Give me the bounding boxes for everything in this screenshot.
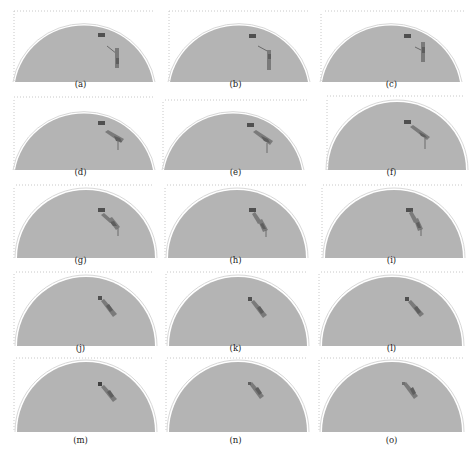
simulation-frame: [157, 2, 314, 82]
panel-label: (n): [157, 435, 314, 445]
panel-n: (n): [157, 356, 314, 446]
moving-object: [267, 50, 271, 70]
panel-label: (g): [2, 255, 159, 265]
panel-f: (f): [313, 90, 470, 180]
panel-label: (e): [157, 167, 314, 177]
panel-label: (a): [2, 79, 159, 89]
target-marker: [404, 120, 411, 124]
target-marker: [248, 382, 251, 385]
panel-l: (l): [313, 266, 470, 356]
panel-h: (h): [157, 178, 314, 268]
target-marker: [98, 121, 105, 125]
target-marker: [248, 297, 252, 301]
target-marker: [98, 208, 105, 212]
panel-label: (f): [313, 167, 470, 177]
panel-label: (d): [2, 167, 159, 177]
panel-o: (o): [313, 356, 470, 446]
target-marker: [402, 382, 405, 385]
panel-g: (g): [2, 178, 159, 268]
target-marker: [98, 382, 102, 386]
panel-label: (i): [313, 255, 470, 265]
panel-j: (j): [2, 266, 159, 356]
panel-label: (h): [157, 255, 314, 265]
panel-label: (b): [157, 79, 314, 89]
simulation-frame: [313, 356, 470, 436]
simulation-frame: [2, 356, 159, 436]
simulation-frame: [313, 266, 470, 346]
target-marker: [404, 34, 411, 38]
panel-a: (a): [2, 2, 159, 92]
target-marker: [249, 208, 256, 212]
panel-e: (e): [157, 90, 314, 180]
target-marker: [98, 33, 105, 37]
simulation-frame: [313, 90, 470, 170]
panel-label: (c): [313, 79, 470, 89]
target-marker: [98, 296, 102, 300]
panel-i: (i): [313, 178, 470, 268]
panel-label: (k): [157, 343, 314, 353]
panel-b: (b): [157, 2, 314, 92]
target-marker: [405, 297, 409, 301]
panel-c: (c): [313, 2, 470, 92]
panel-label: (o): [313, 435, 470, 445]
simulation-frame: [157, 266, 314, 346]
simulation-frame: [313, 178, 470, 258]
simulation-frame: [313, 2, 470, 82]
simulation-frame: [157, 356, 314, 436]
panel-label: (m): [2, 435, 159, 445]
panel-label: (j): [2, 343, 159, 353]
simulation-frame: [2, 266, 159, 346]
panel-d: (d): [2, 90, 159, 180]
simulation-frame: [157, 90, 314, 170]
panel-k: (k): [157, 266, 314, 356]
simulation-frame: [2, 90, 159, 170]
simulation-frame: [2, 2, 159, 82]
simulation-frame: [2, 178, 159, 258]
figure-grid: (a) (b) (c): [0, 0, 473, 451]
target-marker: [247, 123, 254, 127]
target-marker: [249, 34, 256, 38]
panel-m: (m): [2, 356, 159, 446]
panel-label: (l): [313, 343, 470, 353]
simulation-frame: [157, 178, 314, 258]
